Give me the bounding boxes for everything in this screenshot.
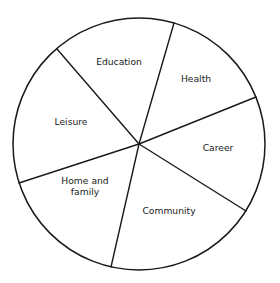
wheel-svg-canvas: EducationHealthCareerCommunityHome andfa…: [0, 0, 280, 283]
wheel-sectors-group: [13, 18, 265, 270]
wheel-of-life-diagram: EducationHealthCareerCommunityHome andfa…: [0, 0, 280, 283]
